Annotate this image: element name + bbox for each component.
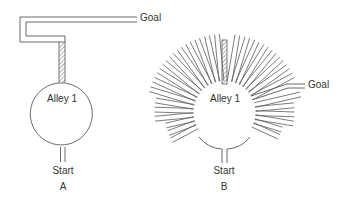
maze-b-radial-alley-wall — [215, 35, 220, 82]
maze-b-goal-label: Goal — [308, 79, 329, 90]
maze-a-caption: A — [60, 181, 67, 192]
maze-b-radial-alley-wall — [173, 129, 199, 143]
maze-b-radial-alley-wall — [255, 103, 294, 107]
maze-b-radial-alley-wall — [239, 45, 264, 85]
maze-b-radial-alley-wall — [205, 37, 216, 83]
maze-diagram: Goal Alley 1 Start A Goal Alley 1 Start … — [0, 0, 338, 201]
maze-b-radial-alley-wall — [155, 117, 194, 121]
maze-a-goal-label: Goal — [140, 12, 161, 23]
maze-b-radial-alley-wall — [155, 112, 194, 113]
maze-b-radial-alley-wall — [157, 73, 197, 98]
maze-b: Goal Alley 1 Start B — [149, 34, 329, 192]
maze-b-caption: B — [221, 181, 228, 192]
maze-a-goal-path-outer-wall — [20, 17, 137, 42]
maze-b-hatched-alley — [222, 40, 227, 84]
maze-b-chamber-label: Alley 1 — [210, 93, 240, 104]
maze-b-radial-alley-wall — [254, 123, 280, 135]
maze-b-chamber-bottom-arc — [199, 137, 222, 149]
maze-a: Goal Alley 1 Start A — [20, 12, 161, 193]
maze-b-chamber-bottom-arc-right — [227, 137, 250, 149]
maze-a-chamber-label: Alley 1 — [47, 93, 77, 104]
maze-b-radial-alley-wall — [255, 119, 283, 127]
maze-a-goal-path-inner-wall — [26, 22, 137, 36]
maze-a-start-label: Start — [52, 165, 73, 176]
maze-b-start-label: Start — [213, 165, 234, 176]
maze-b-radial-alley-wall — [252, 127, 278, 139]
maze-b-radial-alley-wall — [256, 111, 295, 112]
maze-a-hatched-alley — [59, 42, 65, 83]
